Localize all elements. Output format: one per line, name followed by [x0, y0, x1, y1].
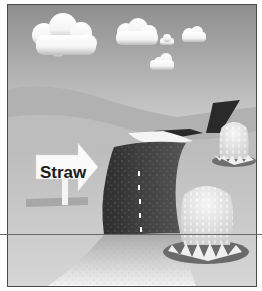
illustration-frame: Straw: [7, 4, 257, 287]
sign-label: Straw: [40, 163, 86, 183]
divider-line: [0, 234, 262, 235]
landscape-scene: [8, 5, 256, 286]
